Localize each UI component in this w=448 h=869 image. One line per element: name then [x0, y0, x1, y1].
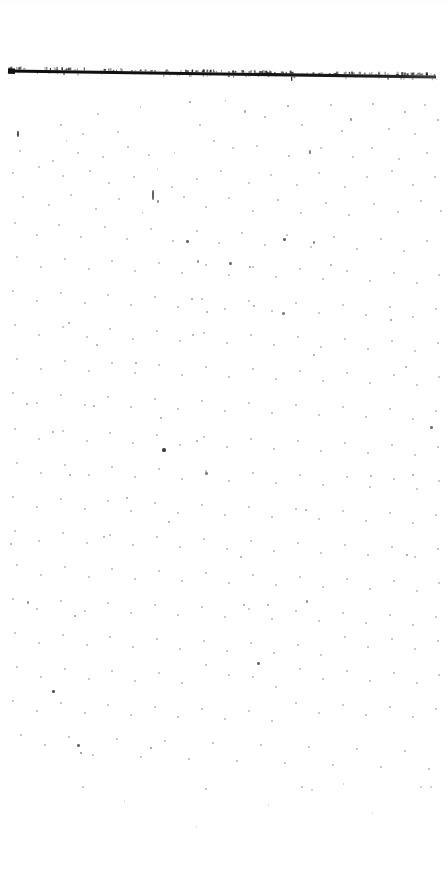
- dust-speck: [271, 618, 273, 620]
- dust-speck: [273, 550, 275, 552]
- dust-speck: [299, 474, 301, 476]
- dust-speck: [205, 472, 208, 475]
- dust-speck: [111, 670, 113, 672]
- dust-speck: [69, 474, 71, 476]
- dust-speck: [346, 670, 348, 672]
- horizontal-rule-container: [0, 0, 448, 869]
- dust-speck: [88, 370, 90, 372]
- dust-speck: [437, 446, 439, 448]
- dust-speck: [177, 512, 179, 514]
- dust-speck: [62, 175, 64, 177]
- dust-speck: [148, 154, 150, 156]
- dust-speck: [252, 676, 254, 678]
- dust-speck: [40, 676, 42, 678]
- dust-speck: [252, 472, 254, 474]
- dust-speck: [250, 642, 252, 644]
- dust-speck: [38, 540, 40, 542]
- dust-speck: [295, 610, 297, 612]
- dust-speck: [412, 624, 414, 626]
- dust-speck: [318, 312, 320, 314]
- dust-speck: [370, 475, 372, 477]
- dust-speck: [437, 640, 439, 642]
- dust-speck: [330, 264, 332, 266]
- dust-speck: [342, 704, 344, 706]
- dust-speck: [154, 296, 156, 298]
- dust-speck: [203, 332, 205, 334]
- dust-speck: [391, 340, 393, 342]
- dust-speck: [397, 211, 399, 213]
- dust-speck: [126, 238, 128, 240]
- dust-speck: [228, 674, 230, 676]
- dust-speck: [132, 442, 134, 444]
- dust-speck: [284, 762, 286, 764]
- dust-speck: [80, 752, 82, 754]
- dust-speck: [412, 316, 414, 318]
- dust-speck: [389, 706, 391, 708]
- dust-speck: [179, 546, 181, 548]
- dust-speck: [229, 262, 232, 265]
- dust-speck: [412, 522, 414, 524]
- dust-speck: [16, 358, 18, 360]
- dust-speck: [38, 166, 40, 168]
- dust-speck: [301, 124, 303, 126]
- dust-speck: [389, 512, 391, 514]
- dust-speck: [220, 170, 222, 172]
- dust-speck: [306, 600, 308, 603]
- dust-speck: [253, 305, 255, 307]
- dust-speck: [369, 680, 371, 682]
- dust-speck: [196, 826, 197, 828]
- dust-speck: [389, 408, 391, 410]
- dust-speck: [157, 168, 158, 170]
- dust-speck: [412, 716, 414, 718]
- dust-speck: [414, 648, 416, 650]
- dust-speck: [271, 412, 273, 414]
- horizontal-rule-svg: [0, 0, 448, 869]
- dust-speck: [36, 608, 38, 610]
- dust-speck: [313, 354, 315, 356]
- dust-speck: [297, 644, 299, 646]
- dust-speck: [295, 508, 297, 510]
- dust-speck: [322, 678, 324, 680]
- dust-speck: [16, 462, 18, 464]
- dust-speck: [275, 482, 277, 484]
- dust-speck: [213, 140, 215, 142]
- dust-speck: [412, 184, 414, 186]
- scanned-page: Blank scanned page with a single heavy h…: [0, 0, 448, 869]
- dust-speck: [318, 172, 320, 174]
- dust-speck: [188, 758, 190, 760]
- dust-speck: [84, 712, 86, 714]
- horizontal-rule: [8, 66, 437, 80]
- dust-speck: [86, 440, 88, 442]
- dust-speck: [369, 486, 371, 488]
- dust-speck: [107, 704, 109, 706]
- dust-speck: [342, 510, 344, 512]
- dust-speck: [40, 368, 42, 370]
- dust-speck: [74, 615, 76, 617]
- dust-speck: [181, 374, 183, 376]
- dust-speck: [380, 238, 382, 240]
- dust-speck: [142, 212, 143, 214]
- dust-speck: [158, 364, 160, 366]
- dust-speck: [191, 298, 193, 300]
- dust-speck: [158, 570, 160, 572]
- dust-speck: [249, 266, 251, 268]
- dust-speck: [430, 426, 433, 429]
- dust-speck: [126, 497, 128, 499]
- dust-speck: [367, 646, 369, 648]
- dust-speck: [322, 484, 324, 486]
- dust-speck: [203, 640, 205, 642]
- dust-speck: [192, 334, 194, 336]
- dust-speck: [199, 124, 201, 126]
- dust-speck: [111, 260, 113, 262]
- dust-speck: [267, 604, 269, 606]
- dust-speck: [367, 554, 369, 556]
- dust-speck: [301, 786, 303, 788]
- dust-speck: [84, 302, 86, 304]
- dust-speck: [212, 742, 214, 744]
- dust-speck: [89, 170, 91, 172]
- dust-speck: [224, 410, 226, 412]
- dust-speck: [156, 434, 158, 436]
- dust-speck: [107, 294, 109, 296]
- dust-speck: [295, 404, 297, 406]
- dust-speck: [134, 270, 136, 272]
